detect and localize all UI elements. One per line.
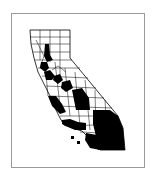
- island-2: [77, 141, 80, 144]
- california-county-map: [0, 0, 155, 178]
- county-butte: [44, 44, 53, 62]
- island-1: [71, 136, 74, 139]
